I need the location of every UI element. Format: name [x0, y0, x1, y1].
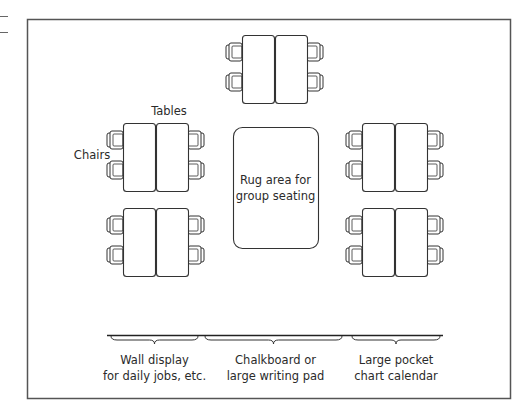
- tables-label: Tables: [144, 104, 194, 119]
- chair: [107, 246, 123, 264]
- table-left-half: [243, 36, 275, 104]
- chair: [188, 131, 204, 149]
- chair: [226, 43, 242, 61]
- chair: [226, 73, 242, 91]
- chair: [427, 161, 443, 179]
- table-left-half: [363, 209, 395, 277]
- wall-display-label-line1: Wall display: [97, 353, 212, 368]
- chair: [427, 246, 443, 264]
- classroom-floor-plan: Tables Chairs Rug area for group seating…: [0, 0, 519, 420]
- wall-display-label-line2: for daily jobs, etc.: [97, 369, 212, 384]
- brace-chalkboard: [205, 336, 342, 344]
- edge-mark: [0, 16, 8, 17]
- chair: [427, 131, 443, 149]
- chairs-label: Chairs: [72, 148, 112, 163]
- chair: [346, 131, 362, 149]
- rug-area: [234, 128, 319, 249]
- table-right-half: [157, 124, 189, 192]
- chair: [188, 216, 204, 234]
- chair: [307, 73, 323, 91]
- chair: [346, 161, 362, 179]
- calendar-label-line1: Large pocket: [346, 353, 446, 368]
- chair: [107, 161, 123, 179]
- chair: [346, 216, 362, 234]
- chair: [307, 43, 323, 61]
- table-right-half: [396, 209, 428, 277]
- brace-wall-display: [111, 336, 198, 344]
- chair: [107, 216, 123, 234]
- chair: [346, 246, 362, 264]
- chair: [427, 216, 443, 234]
- rug-label-line1: Rug area for: [233, 173, 318, 188]
- table-right-half: [157, 209, 189, 277]
- calendar-label-line2: chart calendar: [346, 369, 446, 384]
- table-left-half: [124, 209, 156, 277]
- table-left-half: [124, 124, 156, 192]
- chalkboard-label-line1: Chalkboard or: [213, 353, 338, 368]
- table-right-half: [396, 124, 428, 192]
- chair: [107, 131, 123, 149]
- table-left-half: [363, 124, 395, 192]
- table-right-half: [276, 36, 308, 104]
- edge-mark: [0, 32, 8, 33]
- brace-pocket-calendar: [352, 336, 440, 344]
- chair: [188, 246, 204, 264]
- rug-label-line2: group seating: [233, 189, 318, 204]
- chalkboard-label-line2: large writing pad: [213, 369, 338, 384]
- chair: [188, 161, 204, 179]
